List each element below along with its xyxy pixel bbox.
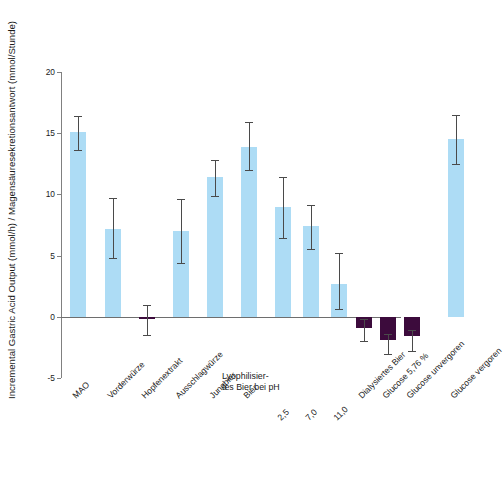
error-cap-lower — [307, 249, 315, 250]
error-cap-upper — [279, 177, 287, 178]
y-tick-label: 20 — [46, 67, 55, 77]
error-cap-upper — [452, 115, 460, 116]
x-tick-label: 2,5 — [275, 407, 291, 423]
error-cap-lower — [109, 258, 117, 259]
y-tick-mark — [57, 133, 61, 134]
error-cap-lower — [384, 354, 392, 355]
y-tick-mark — [57, 72, 61, 73]
error-bar — [181, 199, 182, 263]
error-cap-upper — [143, 305, 151, 306]
error-cap-upper — [360, 319, 368, 320]
error-bar — [364, 319, 365, 341]
error-bar — [249, 122, 250, 170]
error-bar — [78, 116, 79, 150]
y-tick-label: -5 — [48, 373, 55, 383]
bar — [207, 177, 223, 317]
x-tick-label: MAO — [70, 380, 91, 401]
x-axis-group-header: Lyophilisier- tes Bier bei pH — [222, 371, 280, 392]
x-axis-group-header-line1: Lyophilisier- — [222, 371, 280, 382]
plot-area: -505101520 — [61, 72, 401, 378]
error-cap-upper — [74, 116, 82, 117]
error-cap-lower — [360, 341, 368, 342]
error-cap-upper — [177, 199, 185, 200]
y-tick-label: 5 — [50, 251, 55, 261]
y-tick-label: 15 — [46, 128, 55, 138]
y-tick-mark — [57, 194, 61, 195]
error-cap-upper — [307, 205, 315, 206]
error-cap-upper — [384, 334, 392, 335]
error-bar — [339, 253, 340, 309]
x-tick-label: 7,0 — [303, 407, 319, 423]
error-bar — [456, 115, 457, 164]
error-bar — [147, 305, 148, 336]
y-tick-label: 0 — [50, 312, 55, 322]
y-tick-mark — [57, 317, 61, 318]
error-bar — [283, 177, 284, 238]
y-tick-mark — [57, 256, 61, 257]
error-bar — [388, 334, 389, 354]
error-cap-lower — [408, 351, 416, 352]
error-cap-lower — [177, 263, 185, 264]
y-tick-label: 10 — [46, 189, 55, 199]
bar — [448, 139, 464, 316]
error-bar — [311, 205, 312, 249]
error-cap-upper — [245, 122, 253, 123]
x-tick-label: 11,0 — [331, 404, 349, 422]
error-bar — [113, 198, 114, 258]
error-cap-upper — [211, 160, 219, 161]
error-bar — [215, 160, 216, 195]
y-tick-mark — [57, 378, 61, 379]
y-axis-title: Incremental Gastric Acid Output (mmol/h)… — [0, 0, 24, 420]
x-axis-group-header-line2: tes Bier bei pH — [222, 382, 280, 393]
error-cap-lower — [211, 196, 219, 197]
error-cap-lower — [143, 335, 151, 336]
error-cap-lower — [279, 238, 287, 239]
error-cap-upper — [335, 253, 343, 254]
error-cap-lower — [452, 164, 460, 165]
error-bar — [412, 330, 413, 351]
error-cap-upper — [408, 330, 416, 331]
y-axis-line — [61, 72, 62, 378]
error-cap-upper — [109, 198, 117, 199]
error-cap-lower — [335, 309, 343, 310]
bar — [70, 132, 86, 317]
error-cap-lower — [74, 150, 82, 151]
error-cap-lower — [245, 170, 253, 171]
bar — [241, 147, 257, 317]
y-axis-title-wrap: Incremental Gastric Acid Output (mmol/h)… — [0, 0, 40, 420]
zero-baseline — [61, 317, 401, 318]
